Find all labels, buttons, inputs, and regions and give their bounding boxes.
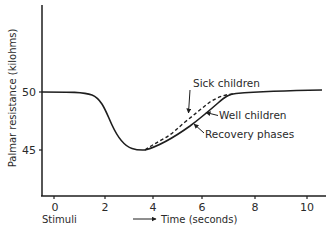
x-axis-title: Time (seconds) — [160, 214, 237, 225]
y-tick-label-50: 50 — [22, 86, 36, 99]
stimuli-label: Stimuli — [42, 214, 77, 225]
annotation-well-children: Well children — [219, 109, 287, 121]
y-tick-label-45: 45 — [22, 144, 36, 157]
well-children-arrow-icon — [206, 113, 218, 116]
y-axis-title: Palmar resistance (kilohms) — [7, 29, 18, 168]
recovery-phases-arrow-icon — [194, 124, 204, 133]
x-tick-label-10: 10 — [300, 201, 314, 214]
x-tick-label-4: 4 — [150, 201, 157, 214]
x-tick-label-8: 8 — [252, 201, 259, 214]
annotation-sick-children: Sick children — [193, 77, 260, 89]
x-tick-label-6: 6 — [199, 201, 206, 214]
chart-canvas: 50 45 0 2 4 6 8 10 Stimuli Time (seconds… — [0, 0, 336, 231]
x-tick-label-0: 0 — [52, 201, 59, 214]
sick-children-arrow-icon — [189, 90, 191, 113]
x-tick-label-2: 2 — [102, 201, 109, 214]
annotation-recovery-phases: Recovery phases — [205, 128, 294, 140]
